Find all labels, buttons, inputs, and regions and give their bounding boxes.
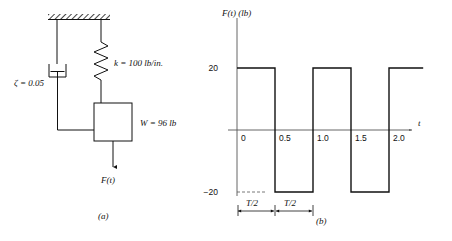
figure-root: ζ = 0.05 k = 100 lb/in. W = 96 lb F(t) (… [0,0,452,241]
panel-b-forcing-chart: F(t) (lb) t 20 −20 0 0.5 1.0 1.5 2.0 T/2… [204,8,424,226]
panel-a-caption: (a) [98,211,109,221]
half-period-dimension-first: T/2 [238,198,275,216]
damping-ratio-label: ζ = 0.05 [14,78,44,88]
x-axis-label: t [418,118,421,128]
y-axis-label: F(t) (lb) [221,8,251,18]
weight-label: W = 96 lb [140,118,177,128]
y-tick-label-20: 20 [209,63,219,73]
half-period-label-1: T/2 [246,198,259,208]
mass-block-icon [94,103,132,141]
panel-a-system-diagram: ζ = 0.05 k = 100 lb/in. W = 96 lb F(t) (… [14,14,177,221]
spring-constant-label: k = 100 lb/in. [114,58,163,68]
damper-icon [49,20,94,131]
x-tick-label-1p5: 1.5 [355,133,367,143]
hatched-ceiling-icon [48,14,110,20]
force-label: F(t) [100,175,115,185]
y-tick-label-minus-20: −20 [204,187,219,197]
coil-spring-icon [94,20,108,104]
x-tick-label-0p5: 0.5 [279,133,291,143]
x-tick-label-0: 0 [241,133,246,143]
half-period-label-2: T/2 [284,198,297,208]
panel-b-caption: (b) [316,216,327,226]
x-tick-label-2p0: 2.0 [393,133,405,143]
x-tick-label-1p0: 1.0 [317,133,329,143]
half-period-dimension-second: T/2 [276,198,313,216]
